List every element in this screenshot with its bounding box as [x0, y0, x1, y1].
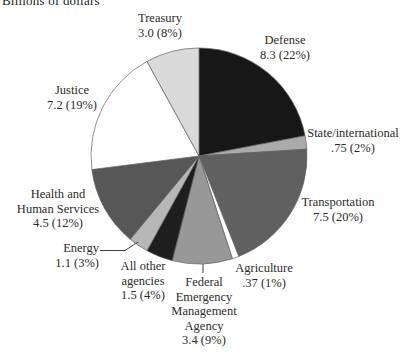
label-transportation-value: 7.5 (20%) — [301, 210, 374, 225]
label-state-value: .75 (2%) — [307, 141, 399, 156]
label-agriculture-name: Agriculture — [235, 261, 293, 276]
label-agriculture-value: .37 (1%) — [235, 276, 293, 291]
label-justice-value: 7.2 (19%) — [47, 98, 97, 113]
label-fema-line3: Management — [171, 304, 236, 319]
label-defense: Defense 8.3 (22%) — [260, 33, 310, 62]
label-health-human-services: Health and Human Services 4.5 (12%) — [17, 187, 99, 231]
label-justice: Justice 7.2 (19%) — [47, 83, 97, 112]
label-justice-name: Justice — [47, 83, 97, 98]
label-all-other-line2: agencies — [121, 274, 166, 289]
budget-pie-chart-figure: Billions of dollars Treasury 3.0 (8%) De… — [0, 0, 418, 363]
label-state-international: State/international .75 (2%) — [307, 126, 399, 155]
pie-slices — [91, 48, 307, 264]
label-state-name: State/international — [307, 126, 399, 141]
label-defense-value: 8.3 (22%) — [260, 48, 310, 63]
label-transportation-name: Transportation — [301, 195, 374, 210]
label-agriculture: Agriculture .37 (1%) — [235, 261, 293, 290]
label-treasury-name: Treasury — [138, 11, 182, 26]
label-energy-name: Energy — [55, 241, 99, 256]
label-defense-name: Defense — [260, 33, 310, 48]
label-energy-value: 1.1 (3%) — [55, 256, 99, 271]
label-hhs-line1: Health and — [17, 187, 99, 202]
label-energy: Energy 1.1 (3%) — [55, 241, 99, 270]
label-fema-line4: Agency — [171, 319, 236, 334]
label-fema: Federal Emergency Management Agency 3.4 … — [171, 275, 236, 348]
label-all-other-value: 1.5 (4%) — [121, 288, 166, 303]
label-hhs-value: 4.5 (12%) — [17, 216, 99, 231]
label-fema-line1: Federal — [171, 275, 236, 290]
label-treasury: Treasury 3.0 (8%) — [138, 11, 182, 40]
label-fema-value: 3.4 (9%) — [171, 333, 236, 348]
label-transportation: Transportation 7.5 (20%) — [301, 195, 374, 224]
label-hhs-line2: Human Services — [17, 202, 99, 217]
energy-leader-line — [100, 242, 138, 251]
label-all-other-line1: All other — [121, 259, 166, 274]
label-treasury-value: 3.0 (8%) — [138, 26, 182, 41]
label-all-other-agencies: All other agencies 1.5 (4%) — [121, 259, 166, 303]
label-fema-line2: Emergency — [171, 290, 236, 305]
